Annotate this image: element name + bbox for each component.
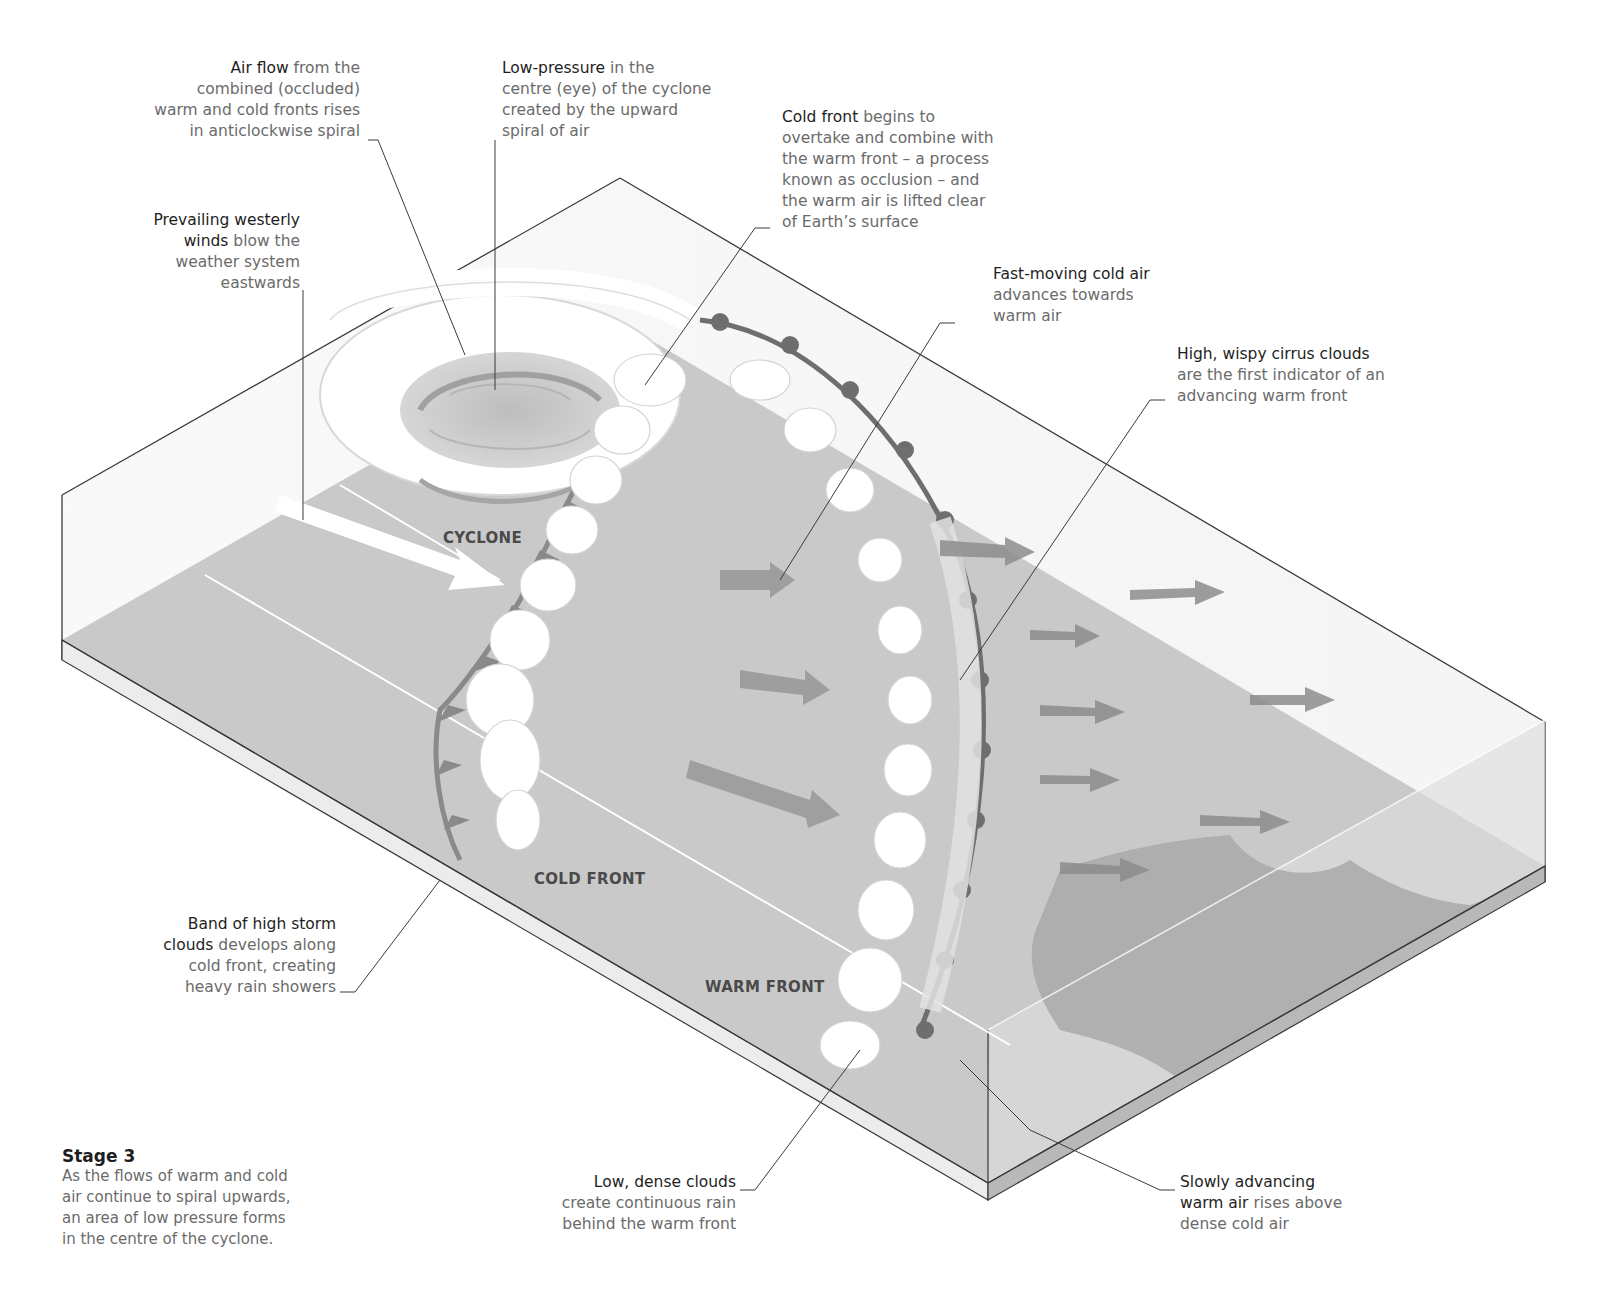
annotation-fast-cold-air: Fast-moving cold air advances towards wa…: [993, 264, 1213, 327]
annotation-prevailing-winds: Prevailing westerly winds blow the weath…: [100, 210, 300, 294]
annotation-cold-front-occlusion: Cold front begins to overtake and combin…: [782, 107, 1042, 233]
annotation-low-pressure: Low-pressure in the centre (eye) of the …: [502, 58, 742, 142]
stage-caption: Stage 3 As the flows of warm and cold ai…: [62, 1146, 342, 1250]
annotation-low-dense-clouds: Low, dense clouds create continuous rain…: [520, 1172, 736, 1235]
label-cyclone: CYCLONE: [443, 529, 522, 547]
annotation-storm-clouds: Band of high storm clouds develops along…: [110, 914, 336, 998]
label-warm-front: WARM FRONT: [705, 978, 825, 996]
annotation-cirrus-clouds: High, wispy cirrus clouds are the first …: [1177, 344, 1437, 407]
annotation-slow-warm-air: Slowly advancing warm air rises above de…: [1180, 1172, 1400, 1235]
stage-text: As the flows of warm and cold air contin…: [62, 1166, 342, 1250]
label-cold-front: COLD FRONT: [534, 870, 645, 888]
stage-title: Stage 3: [62, 1146, 342, 1166]
annotation-air-flow: Air flow from the combined (occluded) wa…: [120, 58, 360, 142]
